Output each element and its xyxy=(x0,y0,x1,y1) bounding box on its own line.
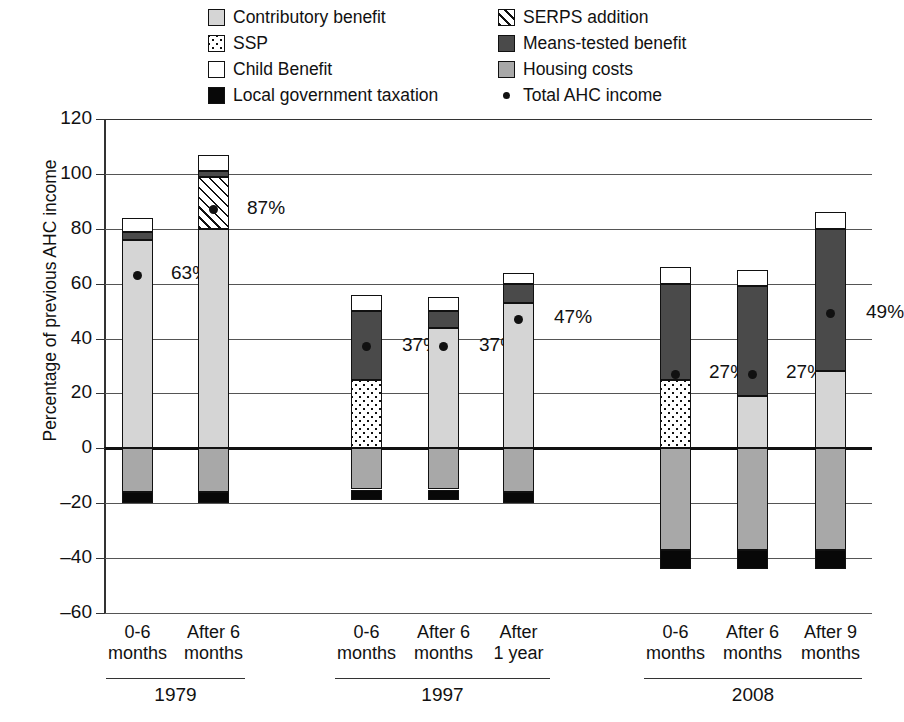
bar-segment-means-tested xyxy=(198,171,229,176)
bar-segment-housing-costs xyxy=(351,448,382,489)
bar-segment-contributory xyxy=(503,303,534,448)
bar-segment-local-tax xyxy=(660,550,691,569)
bar-segment-ssp xyxy=(351,380,382,449)
x-axis-category-line2: months xyxy=(166,643,262,664)
bar-segment-local-tax xyxy=(503,492,534,503)
bar-segment-local-tax xyxy=(122,492,153,503)
legend-label: Local government taxation xyxy=(233,86,438,105)
y-axis-tick-label: 80 xyxy=(0,217,104,239)
bar-segment-contributory xyxy=(815,371,846,448)
gridline xyxy=(104,613,872,614)
local-government-taxation-swatch-icon xyxy=(208,87,225,104)
total-ahc-value-label: 49% xyxy=(866,301,904,323)
bar-segment-child-benefit xyxy=(503,273,534,284)
y-axis-title: Percentage of previous AHC income xyxy=(40,136,61,466)
bar-segment-local-tax xyxy=(428,490,459,501)
bar-2008-0-6-months[interactable] xyxy=(660,119,691,613)
y-axis-tick-label: 60 xyxy=(0,272,104,294)
y-axis-tick-label: –20 xyxy=(0,491,104,513)
group-label-1979: 1979 xyxy=(76,684,276,706)
legend-item-means-tested-benefit: Means-tested benefit xyxy=(498,30,768,56)
y-axis-tick-label: 0 xyxy=(0,436,104,458)
x-axis-category-line2: 1 year xyxy=(471,643,567,664)
bar-segment-local-tax xyxy=(737,550,768,569)
bar-segment-means-tested xyxy=(503,284,534,303)
bar-segment-housing-costs xyxy=(815,448,846,550)
bar-segment-child-benefit xyxy=(351,295,382,311)
bar-segment-child-benefit xyxy=(737,270,768,286)
group-label-2008: 2008 xyxy=(653,684,853,706)
bar-segment-housing-costs xyxy=(737,448,768,550)
legend-label: Contributory benefit xyxy=(233,8,386,27)
x-axis-category-label: After1 year xyxy=(471,622,567,664)
total-ahc-income-marker-icon xyxy=(498,87,515,104)
bar-1997-After-1-year[interactable] xyxy=(503,119,534,613)
bar-segment-child-benefit xyxy=(122,218,153,232)
bar-segment-child-benefit xyxy=(660,267,691,283)
group-rule xyxy=(335,678,550,679)
serps-addition-swatch-icon xyxy=(498,9,515,26)
chart-legend: Contributory benefit SSP Child Benefit L… xyxy=(208,4,768,108)
legend-item-serps-addition: SERPS addition xyxy=(498,4,768,30)
contributory-benefit-swatch-icon xyxy=(208,9,225,26)
group-rule xyxy=(644,678,862,679)
x-axis-category-line2: months xyxy=(783,643,879,664)
bar-segment-child-benefit xyxy=(428,297,459,311)
bar-2008-After-9-months[interactable] xyxy=(815,119,846,613)
bar-1979-After-6-months[interactable] xyxy=(198,119,229,613)
bar-segment-contributory xyxy=(198,229,229,449)
x-axis-category-line1: After xyxy=(471,622,567,643)
legend-item-local-government-taxation: Local government taxation xyxy=(208,82,498,108)
bar-segment-child-benefit xyxy=(815,212,846,228)
legend-label: Housing costs xyxy=(523,60,633,79)
total-ahc-income-point xyxy=(133,271,142,280)
bar-segment-contributory xyxy=(737,396,768,448)
y-axis-tick-label: 20 xyxy=(0,381,104,403)
y-axis-tick-label: 40 xyxy=(0,327,104,349)
group-label-1997: 1997 xyxy=(343,684,543,706)
y-axis-tick-label: 120 xyxy=(0,107,104,129)
means-tested-benefit-swatch-icon xyxy=(498,35,515,52)
bar-segment-ssp xyxy=(660,380,691,449)
bar-segment-means-tested xyxy=(428,311,459,327)
group-rule xyxy=(106,678,245,679)
plot-area: 63%87%37%37%47%27%27%49% xyxy=(104,119,872,613)
legend-item-child-benefit: Child Benefit xyxy=(208,56,498,82)
bar-1979-0-6-months[interactable] xyxy=(122,119,153,613)
bar-2008-After-6-months[interactable] xyxy=(737,119,768,613)
bar-segment-local-tax xyxy=(351,490,382,501)
y-axis-tick-label: –60 xyxy=(0,601,104,623)
bar-segment-housing-costs xyxy=(122,448,153,492)
total-ahc-value-label: 87% xyxy=(247,197,285,219)
bar-1997-After-6-months[interactable] xyxy=(428,119,459,613)
bar-segment-means-tested xyxy=(815,229,846,372)
total-ahc-income-point xyxy=(748,370,757,379)
legend-item-housing-costs: Housing costs xyxy=(498,56,768,82)
bar-segment-local-tax xyxy=(198,492,229,503)
x-axis-category-label: After 9months xyxy=(783,622,879,664)
legend-label: SSP xyxy=(233,34,268,53)
bar-segment-housing-costs xyxy=(428,448,459,489)
bar-segment-means-tested xyxy=(660,284,691,380)
bar-segment-child-benefit xyxy=(198,155,229,171)
legend-label: Means-tested benefit xyxy=(523,34,686,53)
bar-1997-0-6-months[interactable] xyxy=(351,119,382,613)
total-ahc-income-point xyxy=(671,370,680,379)
bar-segment-housing-costs xyxy=(660,448,691,550)
bar-segment-serps xyxy=(198,177,229,229)
bar-segment-means-tested xyxy=(122,232,153,240)
legend-column-left: Contributory benefit SSP Child Benefit L… xyxy=(208,4,498,108)
x-axis-category-line1: After 9 xyxy=(783,622,879,643)
legend-column-right: SERPS addition Means-tested benefit Hous… xyxy=(498,4,768,108)
y-axis-tick-label: 100 xyxy=(0,162,104,184)
bar-segment-local-tax xyxy=(815,550,846,569)
legend-item-total-ahc-income: Total AHC income xyxy=(498,82,768,108)
total-ahc-income-point xyxy=(209,205,218,214)
total-ahc-income-point xyxy=(514,315,523,324)
legend-label: Child Benefit xyxy=(233,60,332,79)
total-ahc-value-label: 47% xyxy=(554,306,592,328)
legend-item-ssp: SSP xyxy=(208,30,498,56)
y-axis-tick-label: –40 xyxy=(0,546,104,568)
ssp-swatch-icon xyxy=(208,35,225,52)
